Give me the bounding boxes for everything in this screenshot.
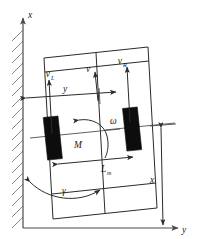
kinematics-figure: x y v L v v R y ω M L m γ x (0, 0, 198, 239)
center-velocity-symbol: v (86, 64, 91, 74)
right-wheel (123, 107, 142, 151)
wheelbase-length-label: L m (100, 164, 112, 176)
wheelbase-subscript: m (107, 170, 112, 176)
x-axis-label: x (27, 10, 33, 20)
wheelbase-dimension (58, 157, 133, 164)
longitudinal-distance-x-label: x (149, 175, 155, 185)
y-axis-label: y (181, 225, 187, 235)
wheelbase-symbol: L (100, 164, 106, 174)
right-wheel-velocity-label: v R (118, 56, 127, 68)
right-velocity-subscript: R (122, 62, 127, 68)
heading-angle-gamma-label: γ (62, 186, 66, 196)
angular-velocity-omega-label: ω (110, 116, 117, 126)
lateral-distance-y-label: y (62, 84, 68, 94)
wall-hatching (12, 30, 23, 228)
moment-m-label: M (73, 140, 83, 150)
left-wheel (43, 116, 62, 160)
angular-velocity-arc (79, 120, 108, 158)
left-velocity-subscript: L (50, 75, 55, 81)
lateral-distance-dimension (26, 88, 116, 104)
hatched-wall (12, 18, 23, 228)
figure-canvas: x y v L v v R y ω M L m γ x (0, 0, 198, 239)
